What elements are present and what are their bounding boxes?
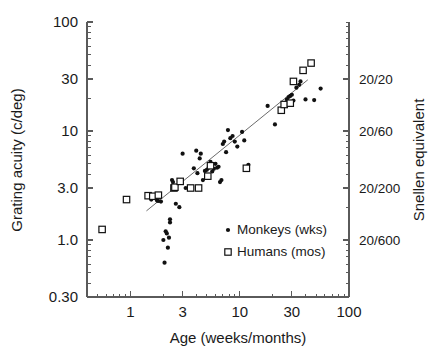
data-point-monkey [168, 217, 172, 221]
data-point-human [300, 67, 306, 73]
data-point-human [187, 185, 193, 191]
data-point-monkey [226, 128, 230, 132]
x-axis-ticklabel: 3 [178, 303, 186, 320]
legend-label-humans: Humans (mos) [237, 244, 326, 259]
data-point-monkey [230, 134, 234, 138]
legend-marker-humans [225, 249, 231, 255]
y-axis-right-ticklabel: 20/200 [359, 181, 400, 196]
data-point-monkey [273, 122, 277, 126]
data-point-monkey [174, 202, 178, 206]
x-axis-ticklabels: 131030100 [126, 303, 361, 320]
data-point-monkey [198, 156, 202, 160]
legend-marker-monkeys [226, 228, 230, 232]
data-point-monkey [159, 200, 163, 204]
data-point-monkey [303, 97, 307, 101]
x-axis-title: Age (weeks/months) [170, 329, 307, 346]
data-point-monkey [312, 98, 316, 102]
data-point-monkey [199, 152, 203, 156]
data-point-monkey [224, 150, 228, 154]
data-point-human [177, 178, 183, 184]
y-axis-right-ticklabel: 20/60 [359, 124, 393, 139]
chart-legend: Monkeys (wks)Humans (mos) [225, 222, 327, 259]
x-axis-ticklabel: 100 [336, 303, 361, 320]
data-point-monkey [298, 79, 302, 83]
data-point-monkey [194, 149, 198, 153]
x-axis-ticklabel: 10 [231, 303, 248, 320]
data-point-monkey [240, 130, 244, 134]
x-axis-ticklabel: 1 [126, 303, 134, 320]
data-point-monkey [166, 246, 170, 250]
data-point-human [155, 192, 161, 198]
data-point-monkey [222, 139, 226, 143]
y-axis-left-ticklabel: 0.30 [49, 288, 78, 305]
y-axis-left [87, 22, 93, 297]
y-axis-left-ticklabel: 3.0 [57, 179, 78, 196]
data-point-human [205, 173, 211, 179]
data-point-monkey [216, 165, 220, 169]
data-point-monkey [235, 144, 239, 148]
data-point-human [243, 165, 249, 171]
data-point-monkey [233, 139, 237, 143]
data-point-monkey [167, 236, 171, 240]
data-point-human [207, 163, 213, 169]
grating-acuity-chart: 0.301.03.01030100 131030100 20/2020/6020… [0, 0, 438, 352]
x-axis-bottom [87, 291, 349, 297]
y-axis-left-ticklabels: 0.301.03.01030100 [49, 13, 78, 305]
data-point-monkey [266, 104, 270, 108]
data-point-monkey [165, 231, 169, 235]
y-axis-left-ticklabel: 100 [53, 13, 78, 30]
data-point-human [290, 78, 296, 84]
y-axis-left-ticklabel: 10 [61, 122, 78, 139]
data-point-human [99, 226, 105, 232]
data-point-monkey [177, 205, 181, 209]
series-humans-points [99, 60, 314, 233]
data-point-monkey [162, 261, 166, 265]
data-point-monkey [161, 238, 165, 242]
y-axis-right-ticklabels: 20/2020/6020/20020/600 [359, 72, 400, 248]
data-point-monkey [192, 166, 196, 170]
y-axis-left-ticklabel: 1.0 [57, 231, 78, 248]
x-axis-ticklabel: 30 [284, 303, 301, 320]
data-point-human [123, 196, 129, 202]
y-axis-right [343, 22, 349, 297]
y-axis-right-title: Snellen equivalent [410, 98, 427, 221]
data-point-human [281, 101, 287, 107]
data-point-monkey [195, 171, 199, 175]
y-axis-left-ticklabel: 30 [61, 70, 78, 87]
data-point-monkey [219, 178, 223, 182]
chart-svg: 0.301.03.01030100 131030100 20/2020/6020… [0, 0, 438, 352]
legend-label-monkeys: Monkeys (wks) [237, 222, 327, 237]
y-axis-right-ticklabel: 20/20 [359, 72, 393, 87]
data-point-monkey [242, 138, 246, 142]
data-point-monkey [181, 152, 185, 156]
y-axis-left-title: Grating acuity (c/deg) [8, 88, 25, 231]
data-point-human [195, 185, 201, 191]
y-axis-right-ticklabel: 20/600 [359, 233, 400, 248]
data-point-monkey [319, 86, 323, 90]
data-point-monkey [290, 93, 294, 97]
data-point-human [287, 100, 293, 106]
data-point-human [308, 60, 314, 66]
